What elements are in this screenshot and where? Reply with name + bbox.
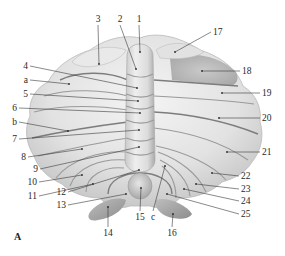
leader-endpoint (174, 51, 176, 53)
leader-endpoint (136, 87, 138, 89)
flocculus-right (155, 199, 192, 219)
label-text: 20 (262, 113, 272, 123)
label-text: b (12, 117, 17, 127)
leader-endpoint (81, 148, 83, 150)
label-text: 2 (118, 14, 123, 24)
leader-endpoint (164, 165, 166, 167)
label-text: 9 (33, 164, 38, 174)
leader-endpoint (166, 193, 168, 195)
leader-endpoint (172, 213, 174, 215)
leader-endpoint (139, 51, 141, 53)
leader-endpoint (138, 129, 140, 131)
label-text: 15 (135, 212, 145, 222)
label-text: 23 (241, 184, 251, 194)
leader-endpoint (125, 193, 127, 195)
label-text: 11 (28, 191, 37, 201)
leader-endpoint (107, 206, 109, 208)
label-text: 16 (167, 228, 177, 238)
leader-endpoint (137, 100, 139, 102)
leader-endpoint (135, 68, 137, 70)
leader-endpoint (68, 83, 70, 85)
leader-endpoint (81, 174, 83, 176)
label-text: 7 (12, 134, 17, 144)
leader-endpoint (195, 183, 197, 185)
label-text: 8 (21, 152, 26, 162)
panel-label: A (14, 231, 22, 242)
leader-endpoint (211, 172, 213, 174)
label-text: 18 (242, 66, 252, 76)
label-text: 22 (241, 171, 251, 181)
label-text: 13 (57, 200, 67, 210)
label-text: 5 (23, 89, 28, 99)
leader-endpoint (140, 187, 142, 189)
label-text: 10 (28, 177, 38, 187)
label-text: 12 (57, 187, 67, 197)
leader-endpoint (98, 63, 100, 65)
leader-endpoint (221, 92, 223, 94)
leader-endpoint (183, 188, 185, 190)
label-text: 6 (12, 103, 17, 113)
label-text: 19 (262, 88, 272, 98)
label-text: 17 (213, 27, 223, 37)
nodulus (128, 173, 152, 199)
label-text: 3 (96, 14, 101, 24)
flocculus-left (88, 199, 126, 221)
diagram-canvas: 1234a56b789101112131415c1617181920212223… (0, 0, 285, 256)
label-text: 4 (23, 61, 28, 71)
label-text: 1 (137, 14, 142, 24)
label-text: 24 (241, 196, 251, 206)
label-text: c (151, 212, 155, 222)
leader-endpoint (138, 146, 140, 148)
label-text: a (24, 75, 29, 85)
label-text: 14 (103, 228, 113, 238)
leader-endpoint (67, 130, 69, 132)
leader-endpoint (138, 169, 140, 171)
cerebellum-diagram: 1234a56b789101112131415c1617181920212223… (0, 0, 285, 256)
label-text: 25 (241, 209, 251, 219)
leader-endpoint (226, 151, 228, 153)
leader-endpoint (139, 112, 141, 114)
leader-endpoint (218, 117, 220, 119)
label-text: 21 (262, 147, 272, 157)
leader-endpoint (201, 70, 203, 72)
